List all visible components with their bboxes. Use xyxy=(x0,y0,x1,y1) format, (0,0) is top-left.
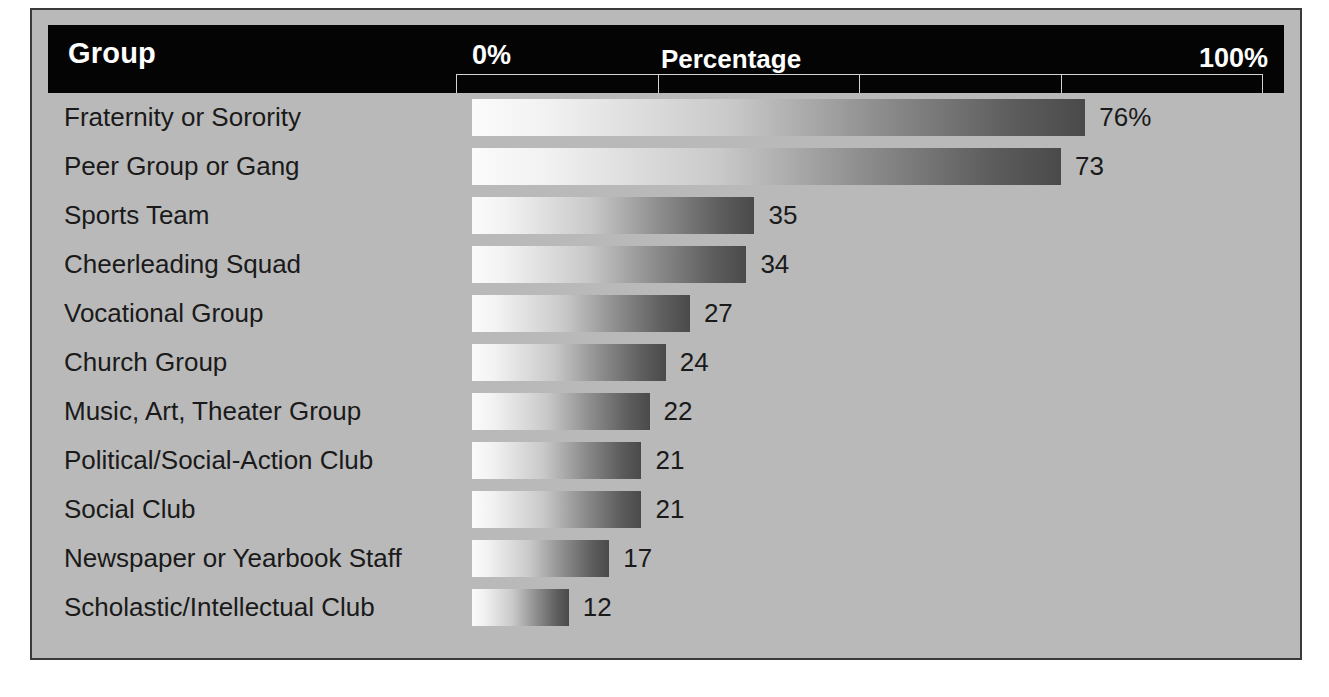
bar-value-label: 35 xyxy=(768,200,797,231)
bar xyxy=(472,589,569,626)
bar-value-label: 24 xyxy=(680,347,709,378)
bar-row: Sports Team35 xyxy=(48,191,1284,240)
bar-track: 22 xyxy=(472,387,1284,436)
bar-category-label: Church Group xyxy=(64,338,227,387)
bar-chart-figure: Group 0% Percentage 100% Fraternity or S… xyxy=(30,8,1302,660)
bar-category-label: Music, Art, Theater Group xyxy=(64,387,361,436)
bar-track: 34 xyxy=(472,240,1284,289)
bar-track: 73 xyxy=(472,142,1284,191)
bar-row: Newspaper or Yearbook Staff17 xyxy=(48,534,1284,583)
bar-chart-plot-area: Fraternity or Sorority76%Peer Group or G… xyxy=(48,93,1284,642)
bar-value-label: 73 xyxy=(1075,151,1104,182)
bar-track: 21 xyxy=(472,436,1284,485)
bar-value-label: 21 xyxy=(655,445,684,476)
bar xyxy=(472,540,609,577)
bar-track: 24 xyxy=(472,338,1284,387)
bar-category-label: Political/Social-Action Club xyxy=(64,436,373,485)
axis-title: Percentage xyxy=(328,44,1134,75)
axis-tick-label-max: 100% xyxy=(1199,43,1268,74)
bar xyxy=(472,393,650,430)
bar-category-label: Fraternity or Sorority xyxy=(64,93,301,142)
bar-track: 35 xyxy=(472,191,1284,240)
bar-row: Cheerleading Squad34 xyxy=(48,240,1284,289)
bar-track: 17 xyxy=(472,534,1284,583)
bar-row: Vocational Group27 xyxy=(48,289,1284,338)
bar-value-label: 76% xyxy=(1099,102,1151,133)
bar-row: Social Club21 xyxy=(48,485,1284,534)
bar xyxy=(472,99,1085,136)
bar-category-label: Peer Group or Gang xyxy=(64,142,300,191)
bar xyxy=(472,491,641,528)
bar-value-label: 27 xyxy=(704,298,733,329)
bar xyxy=(472,442,641,479)
bar-category-label: Cheerleading Squad xyxy=(64,240,301,289)
bar-row: Music, Art, Theater Group22 xyxy=(48,387,1284,436)
bar-track: 76% xyxy=(472,93,1284,142)
bar-track: 12 xyxy=(472,583,1284,632)
bar xyxy=(472,197,754,234)
bar-row: Fraternity or Sorority76% xyxy=(48,93,1284,142)
bar-value-label: 12 xyxy=(583,592,612,623)
bar-value-label: 22 xyxy=(664,396,693,427)
bar-value-label: 21 xyxy=(655,494,684,525)
bar-value-label: 34 xyxy=(760,249,789,280)
bar-category-label: Sports Team xyxy=(64,191,209,240)
bar xyxy=(472,246,746,283)
bar-row: Peer Group or Gang73 xyxy=(48,142,1284,191)
bar-category-label: Vocational Group xyxy=(64,289,263,338)
bar-category-label: Scholastic/Intellectual Club xyxy=(64,583,375,632)
bar-value-label: 17 xyxy=(623,543,652,574)
bar xyxy=(472,344,666,381)
bar-category-label: Social Club xyxy=(64,485,196,534)
bar-row: Scholastic/Intellectual Club12 xyxy=(48,583,1284,632)
bar-category-label: Newspaper or Yearbook Staff xyxy=(64,534,402,583)
bar xyxy=(472,148,1061,185)
bar-row: Church Group24 xyxy=(48,338,1284,387)
bar-track: 21 xyxy=(472,485,1284,534)
column-header-group: Group xyxy=(68,37,156,70)
bar-track: 27 xyxy=(472,289,1284,338)
bar xyxy=(472,295,690,332)
bar-row: Political/Social-Action Club21 xyxy=(48,436,1284,485)
